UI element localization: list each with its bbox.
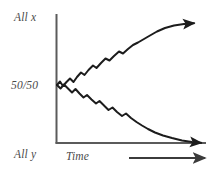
upper-branch-curve	[57, 23, 194, 86]
x-axis-label: Time	[66, 150, 89, 162]
y-axis-bottom-label: All y	[14, 148, 36, 160]
lower-branch-curve	[57, 85, 201, 143]
y-axis-top-label: All x	[14, 11, 36, 23]
divergence-figure: All x 50/50 All y Time	[0, 0, 218, 173]
y-axis-mid-label: 50/50	[11, 79, 38, 91]
